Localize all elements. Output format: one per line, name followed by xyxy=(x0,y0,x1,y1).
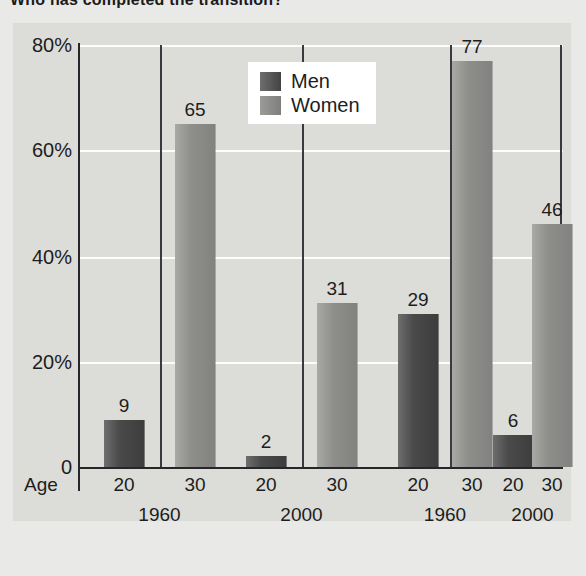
legend-swatch-men-icon xyxy=(260,72,281,91)
x-group-label-1960-2: 1960 xyxy=(424,504,466,526)
legend-item-men: Men xyxy=(260,71,360,91)
page-title: Who has completed the transition? xyxy=(10,0,570,9)
x-tick-age-2: 20 xyxy=(255,474,276,496)
legend-swatch-women-icon xyxy=(260,96,281,115)
legend-label-women: Women xyxy=(291,95,360,115)
y-tick-0: 0 xyxy=(61,456,72,479)
bar-value-label: 9 xyxy=(119,395,130,417)
x-group-label-1960-0: 1960 xyxy=(138,504,180,526)
y-tick-60: 60% xyxy=(32,139,72,162)
bar-women-65: 65 xyxy=(175,124,215,467)
x-tick-age-1: 30 xyxy=(184,474,205,496)
bar-women-77: 77 xyxy=(452,61,492,467)
bar-women-31: 31 xyxy=(317,303,357,467)
x-axis-line xyxy=(78,467,563,469)
bar-men-9: 9 xyxy=(104,420,144,467)
bar-value-label: 31 xyxy=(326,278,347,300)
bar-value-label: 6 xyxy=(508,410,519,432)
bar-men-6: 6 xyxy=(493,435,533,467)
x-tick-age-0: 20 xyxy=(113,474,134,496)
bar-value-label: 2 xyxy=(261,431,272,453)
bar-value-label: 65 xyxy=(184,99,205,121)
legend-label-men: Men xyxy=(291,71,330,91)
bar-value-label: 29 xyxy=(407,289,428,311)
y-tick-20: 20% xyxy=(32,351,72,374)
bar-women-46: 46 xyxy=(532,224,572,467)
x-tick-age-3: 30 xyxy=(326,474,347,496)
x-group-label-2000-3: 2000 xyxy=(511,504,553,526)
y-axis-tick-labels: 80% 60% 40% 20% 0 xyxy=(12,22,72,522)
chart-panel: 80% 60% 40% 20% 0 9652312977646 Men Wome… xyxy=(12,22,572,522)
bar-men-2: 2 xyxy=(246,456,286,467)
x-tick-age-6: 20 xyxy=(502,474,523,496)
chart-legend: Men Women xyxy=(248,62,376,124)
x-tick-age-4: 20 xyxy=(407,474,428,496)
legend-item-women: Women xyxy=(260,95,360,115)
x-axis-age-label: Age xyxy=(24,474,58,496)
x-tick-age-7: 30 xyxy=(541,474,562,496)
x-tick-age-5: 30 xyxy=(461,474,482,496)
bar-men-29: 29 xyxy=(398,314,438,467)
bar-value-label: 46 xyxy=(541,199,562,221)
y-tick-80: 80% xyxy=(32,34,72,57)
bar-value-label: 77 xyxy=(461,36,482,58)
y-tick-40: 40% xyxy=(32,246,72,269)
x-group-label-2000-1: 2000 xyxy=(280,504,322,526)
